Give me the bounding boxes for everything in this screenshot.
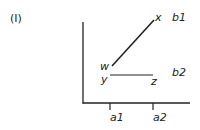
level-label-b2: b2: [172, 66, 186, 79]
tick-label-a2: a2: [153, 111, 167, 124]
point-label-z: z: [150, 75, 157, 88]
line-w-x: [112, 20, 154, 66]
tick-label-a1: a1: [110, 111, 124, 124]
point-label-x: x: [154, 11, 162, 24]
level-label-b1: b1: [172, 11, 186, 24]
figure-label: (I): [10, 12, 22, 25]
point-label-y: y: [100, 73, 108, 86]
diagram: (I) w x y z b1 b2 a1 a2: [0, 0, 200, 130]
point-label-w: w: [100, 60, 109, 73]
